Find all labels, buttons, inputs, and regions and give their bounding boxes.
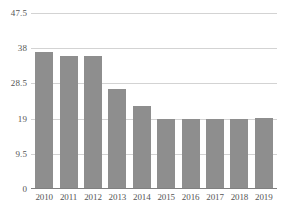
x-axis-tick-label-2011: 2011 [56, 192, 80, 203]
x-axis-tick-label-2017: 2017 [203, 192, 227, 203]
bar-2012[interactable] [84, 56, 102, 189]
bar-slot-2014 [130, 13, 154, 189]
x-axis-tick-label-2013: 2013 [105, 192, 129, 203]
bar-slot-2013 [105, 13, 129, 189]
bar-series [31, 13, 277, 189]
x-axis-tick-label-2015: 2015 [154, 192, 178, 203]
y-axis-tick-label: 19 [0, 115, 27, 124]
bar-2015[interactable] [157, 119, 175, 189]
y-axis-tick-label: 38 [0, 44, 27, 53]
x-axis-tick-label-2016: 2016 [178, 192, 202, 203]
bar-slot-2010 [32, 13, 56, 189]
bar-2018[interactable] [230, 119, 248, 189]
bar-2019[interactable] [255, 118, 273, 190]
bar-2010[interactable] [35, 52, 53, 189]
bar-slot-2019 [252, 13, 276, 189]
x-axis-tick-label-2019: 2019 [252, 192, 276, 203]
bar-slot-2017 [203, 13, 227, 189]
y-axis-labels: 47.5 38 28.5 19 9.5 0 [0, 13, 27, 189]
bar-slot-2018 [227, 13, 251, 189]
bar-chart: 47.5 38 28.5 19 9.5 0 2010 2011 201 [0, 0, 281, 219]
bar-slot-2012 [81, 13, 105, 189]
x-axis-tick-label-2018: 2018 [227, 192, 251, 203]
bar-2014[interactable] [133, 106, 151, 189]
bar-slot-2016 [178, 13, 202, 189]
bar-2011[interactable] [60, 56, 78, 189]
x-axis-labels: 2010 2011 2012 2013 2014 2015 2016 2017 … [31, 192, 277, 203]
x-axis-tick-label-2014: 2014 [130, 192, 154, 203]
plot-area [31, 13, 277, 189]
x-axis-tick-label-2010: 2010 [32, 192, 56, 203]
bar-slot-2011 [56, 13, 80, 189]
bar-2017[interactable] [206, 119, 224, 189]
y-axis-tick-label: 9.5 [0, 150, 27, 159]
x-axis-line [31, 188, 277, 190]
y-axis-tick-label: 28.5 [0, 79, 27, 88]
bar-2013[interactable] [108, 89, 126, 189]
bar-slot-2015 [154, 13, 178, 189]
y-axis-tick-label: 47.5 [0, 9, 27, 18]
bar-2016[interactable] [182, 119, 200, 189]
y-axis-tick-label: 0 [0, 185, 27, 194]
x-axis-tick-label-2012: 2012 [81, 192, 105, 203]
